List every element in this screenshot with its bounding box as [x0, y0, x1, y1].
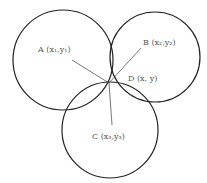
trilateration-diagram: A (x₁,y₁) B (x₂,y₂) D (x, y) C (x₃,y₃) [0, 0, 207, 183]
circle-a [13, 10, 113, 110]
label-a: A (x₁,y₁) [37, 45, 71, 54]
label-d: D (x, y) [128, 74, 157, 83]
line-c-to-d [109, 83, 112, 125]
label-c: C (x₃,y₃) [92, 132, 125, 141]
label-b: B (x₂,y₂) [143, 38, 176, 47]
line-a-to-d [72, 60, 109, 83]
circle-b [110, 12, 200, 102]
